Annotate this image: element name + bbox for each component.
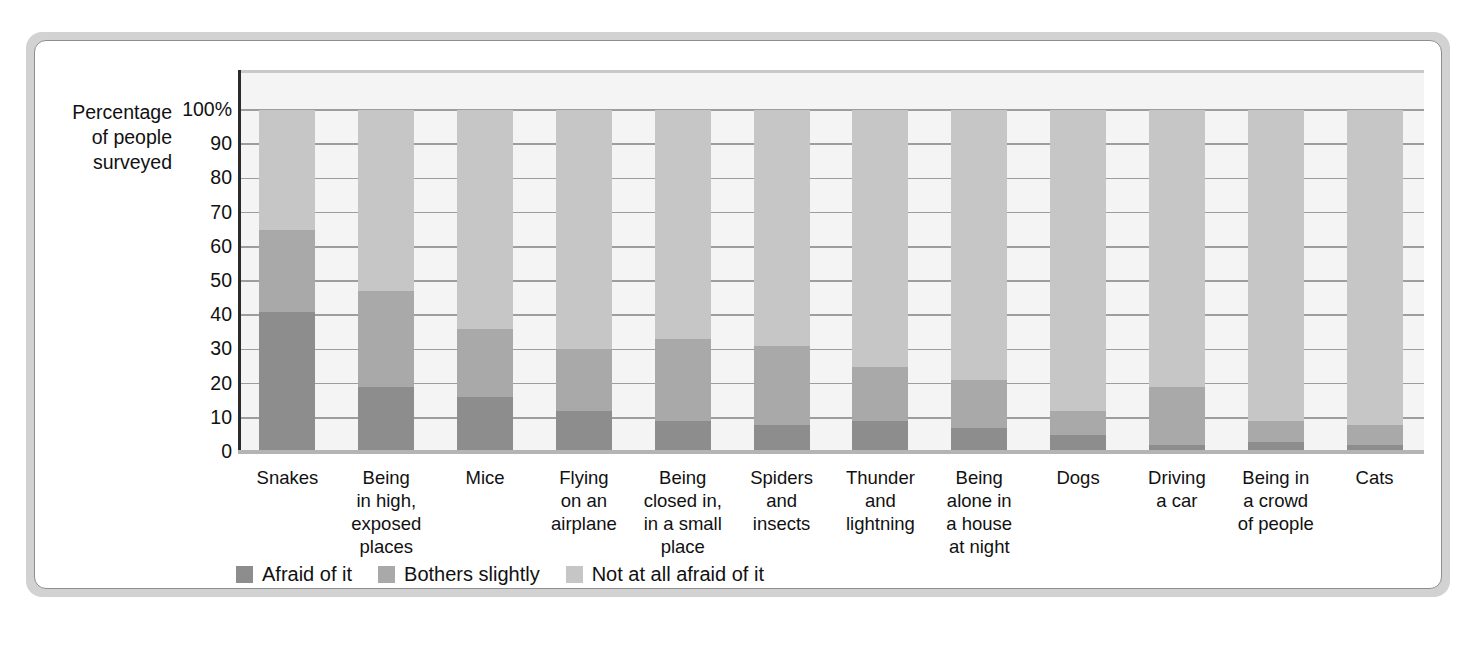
segment-bothers-slightly[interactable]: [457, 329, 513, 397]
segment-bothers-slightly[interactable]: [754, 346, 810, 425]
bar-stack[interactable]: [1149, 110, 1205, 452]
gridline-10: [238, 417, 1424, 419]
y-tick-label-10: 10: [162, 408, 232, 428]
segment-afraid-of-it[interactable]: [655, 421, 711, 452]
y-tick-label-40: 40: [162, 305, 232, 325]
x-category-label: Cats: [1321, 466, 1429, 489]
y-tick-label-20: 20: [162, 374, 232, 394]
legend-swatch-icon: [566, 566, 583, 583]
segment-bothers-slightly[interactable]: [556, 349, 612, 411]
x-category-label: Being alone in a house at night: [925, 466, 1033, 558]
y-tick-label-50: 50: [162, 271, 232, 291]
segment-bothers-slightly[interactable]: [1248, 421, 1304, 442]
y-tick-label-90: 90: [162, 134, 232, 154]
bar-stack[interactable]: [754, 110, 810, 452]
stacked-bar-chart: Percentage of people surveyed 100%908070…: [0, 0, 1476, 662]
y-axis-line: [238, 70, 241, 454]
y-axis-title: Percentage of people surveyed: [46, 100, 172, 175]
legend-label: Bothers slightly: [404, 564, 540, 584]
x-category-label: Driving a car: [1123, 466, 1231, 512]
segment-not-at-all-afraid[interactable]: [1347, 110, 1403, 425]
bar-stack[interactable]: [951, 110, 1007, 452]
segment-bothers-slightly[interactable]: [852, 367, 908, 422]
gridline-100: [238, 109, 1424, 111]
gridline-50: [238, 280, 1424, 282]
x-category-label: Spiders and insects: [728, 466, 836, 535]
segment-not-at-all-afraid[interactable]: [358, 110, 414, 291]
segment-not-at-all-afraid[interactable]: [951, 110, 1007, 380]
segment-afraid-of-it[interactable]: [556, 411, 612, 452]
segment-bothers-slightly[interactable]: [1347, 425, 1403, 446]
bar-stack[interactable]: [259, 110, 315, 452]
bar-stack[interactable]: [457, 110, 513, 452]
y-tick-label-70: 70: [162, 203, 232, 223]
chart-legend: Afraid of itBothers slightlyNot at all a…: [236, 564, 764, 584]
y-tick-label-60: 60: [162, 237, 232, 257]
gridline-60: [238, 246, 1424, 248]
segment-not-at-all-afraid[interactable]: [457, 110, 513, 329]
legend-swatch-icon: [378, 566, 395, 583]
x-category-label: Snakes: [233, 466, 341, 489]
segment-not-at-all-afraid[interactable]: [1248, 110, 1304, 421]
segment-not-at-all-afraid[interactable]: [259, 110, 315, 230]
segment-not-at-all-afraid[interactable]: [754, 110, 810, 346]
segment-not-at-all-afraid[interactable]: [1050, 110, 1106, 411]
segment-bothers-slightly[interactable]: [951, 380, 1007, 428]
x-axis-line: [238, 450, 1424, 454]
gridline-70: [238, 212, 1424, 214]
legend-item[interactable]: Not at all afraid of it: [566, 564, 764, 584]
bar-stack[interactable]: [655, 110, 711, 452]
x-category-label: Being in high, exposed places: [332, 466, 440, 558]
gridline-90: [238, 143, 1424, 145]
legend-swatch-icon: [236, 566, 253, 583]
legend-label: Afraid of it: [262, 564, 352, 584]
segment-not-at-all-afraid[interactable]: [1149, 110, 1205, 387]
gridline-30: [238, 349, 1424, 351]
x-category-label: Being closed in, in a small place: [629, 466, 737, 558]
segment-not-at-all-afraid[interactable]: [655, 110, 711, 339]
plot-area: [238, 70, 1424, 452]
bar-stack[interactable]: [1248, 110, 1304, 452]
segment-bothers-slightly[interactable]: [259, 230, 315, 312]
segment-bothers-slightly[interactable]: [1149, 387, 1205, 445]
bar-stack[interactable]: [358, 110, 414, 452]
segment-afraid-of-it[interactable]: [358, 387, 414, 452]
segment-afraid-of-it[interactable]: [951, 428, 1007, 452]
segment-bothers-slightly[interactable]: [1050, 411, 1106, 435]
y-tick-label-30: 30: [162, 339, 232, 359]
segment-not-at-all-afraid[interactable]: [556, 110, 612, 349]
gridline-40: [238, 314, 1424, 316]
segment-not-at-all-afraid[interactable]: [852, 110, 908, 367]
bar-stack[interactable]: [556, 110, 612, 452]
segment-afraid-of-it[interactable]: [754, 425, 810, 452]
y-tick-label-80: 80: [162, 168, 232, 188]
x-category-label: Flying on an airplane: [530, 466, 638, 535]
x-category-label: Thunder and lightning: [826, 466, 934, 535]
y-tick-label-0: 0: [162, 442, 232, 462]
x-category-label: Mice: [431, 466, 539, 489]
gridline-20: [238, 383, 1424, 385]
segment-bothers-slightly[interactable]: [655, 339, 711, 421]
gridline-80: [238, 178, 1424, 180]
segment-afraid-of-it[interactable]: [259, 312, 315, 452]
plot-top-band: [238, 70, 1424, 73]
legend-item[interactable]: Afraid of it: [236, 564, 352, 584]
bar-stack[interactable]: [1347, 110, 1403, 452]
x-category-label: Dogs: [1024, 466, 1132, 489]
y-tick-label-100: 100%: [162, 100, 232, 120]
x-category-label: Being in a crowd of people: [1222, 466, 1330, 535]
bar-stack[interactable]: [852, 110, 908, 452]
bar-stack[interactable]: [1050, 110, 1106, 452]
segment-afraid-of-it[interactable]: [852, 421, 908, 452]
legend-item[interactable]: Bothers slightly: [378, 564, 540, 584]
segment-afraid-of-it[interactable]: [457, 397, 513, 452]
legend-label: Not at all afraid of it: [592, 564, 764, 584]
segment-bothers-slightly[interactable]: [358, 291, 414, 387]
